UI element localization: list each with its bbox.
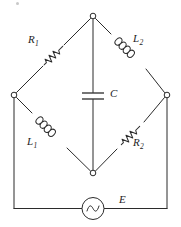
wire-l2-to-right (146, 69, 165, 93)
node-left (11, 92, 17, 98)
branch-l2 (96, 19, 165, 93)
node-top (90, 13, 96, 19)
label-e: E (119, 194, 126, 207)
label-c: C (110, 88, 118, 101)
branch-capacitor (82, 19, 104, 170)
wire-left-to-r1 (17, 66, 44, 93)
label-r1: R1 (28, 34, 39, 47)
ac-source-symbol (82, 198, 104, 220)
label-l1: L1 (27, 136, 37, 149)
node-bottom (90, 170, 96, 176)
wire-top-to-l2 (96, 19, 112, 35)
wire-r1-to-top (64, 19, 91, 46)
label-l2: L2 (133, 33, 143, 46)
node-right (164, 92, 170, 98)
branch-r2 (96, 98, 165, 172)
branch-r1 (17, 19, 91, 93)
wire-r2-to-right (144, 98, 165, 123)
wire-l1-to-bottom (67, 148, 91, 171)
wire-left-to-l1 (17, 98, 33, 114)
wire-bottom-to-r2 (96, 149, 118, 171)
label-r2: R2 (133, 137, 144, 150)
l1-symbol (35, 116, 57, 138)
r1-symbol (42, 44, 65, 67)
outer-loop (14, 98, 167, 209)
circuit-diagram: R1 L2 L1 R2 C E (0, 0, 181, 227)
